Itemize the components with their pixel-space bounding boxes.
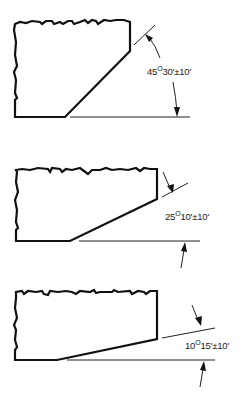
arrowhead-2-top [167, 184, 174, 193]
arrowhead-3-bottom [200, 361, 206, 371]
angle-label-2: 25O10'±10' [165, 211, 209, 222]
angle-degrees-1: 45 [147, 66, 157, 77]
arrowhead-2-bottom [181, 242, 187, 252]
part-outline-2 [15, 168, 157, 241]
drawing-canvas [0, 0, 243, 397]
part-outline-1 [14, 20, 130, 117]
degree-symbol-1: O [157, 65, 162, 72]
extension-line-3 [162, 328, 215, 338]
angle-degrees-3: 10 [185, 340, 195, 351]
degree-symbol-3: O [195, 339, 200, 346]
extension-line-2 [162, 183, 188, 197]
degree-symbol-2: O [175, 210, 180, 217]
angle-minutes-tolerance-1: 30'±10' [162, 66, 191, 77]
angle-minutes-tolerance-3: 15'±10' [200, 340, 229, 351]
dimension-leader-2b [181, 250, 184, 268]
angle-label-1: 45O30'±10' [147, 66, 191, 77]
angle-degrees-2: 25 [165, 211, 175, 222]
angle-label-3: 10O15'±10' [185, 340, 229, 351]
arrowhead-1-bottom [174, 107, 180, 117]
part-outline-3 [14, 290, 157, 360]
dimension-leader-3b [200, 369, 203, 387]
arrowhead-3-top [195, 316, 202, 326]
angle-minutes-tolerance-2: 10'±10' [180, 211, 209, 222]
figure-3 [14, 290, 215, 387]
